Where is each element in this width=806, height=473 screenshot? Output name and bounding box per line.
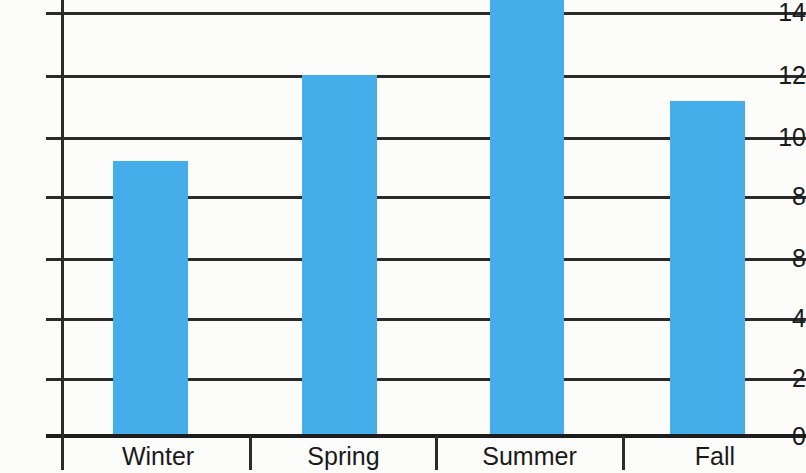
y-tick-label-8: 8: [764, 184, 806, 209]
category-separator-0: [61, 436, 64, 470]
y-tick-label-12: 12: [764, 63, 806, 88]
bar-winter: [113, 161, 188, 436]
x-tick-label-summer: Summer: [437, 444, 622, 469]
x-tick-label-spring: Spring: [252, 444, 435, 469]
bar-spring: [302, 75, 377, 436]
bar-fall: [670, 101, 745, 436]
gridline-12: [46, 75, 806, 78]
gridline-0-baseline: [46, 434, 806, 438]
bar-summer: [490, 0, 564, 436]
y-tick-label-6: 8: [764, 246, 806, 271]
x-tick-label-winter: Winter: [66, 444, 250, 469]
y-tick-label-14: 14: [764, 0, 806, 25]
bar-chart: 14 12 10 8 8 4 2 0 Winter Spring Summer …: [0, 0, 806, 473]
gridline-14: [46, 12, 806, 15]
plot-area: [0, 0, 806, 473]
y-tick-label-4: 4: [764, 306, 806, 331]
x-tick-label-fall: Fall: [624, 444, 806, 469]
y-axis-spine: [61, 0, 64, 470]
y-tick-label-2: 2: [764, 366, 806, 391]
y-tick-label-10: 10: [764, 125, 806, 150]
